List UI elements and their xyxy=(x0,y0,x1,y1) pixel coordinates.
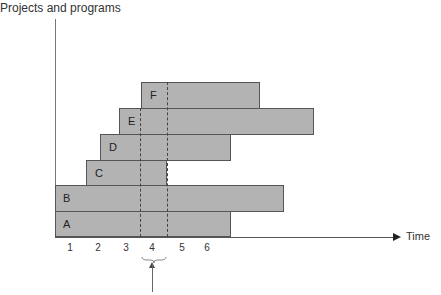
x-axis xyxy=(55,237,394,238)
bar-f: F xyxy=(141,82,260,109)
bar-a-label: A xyxy=(63,218,70,230)
tick-1: 1 xyxy=(64,242,76,253)
bar-d-label: D xyxy=(109,141,117,153)
bar-a: A xyxy=(55,211,231,237)
y-axis-title: Projects and programs xyxy=(0,1,121,15)
bar-c-label: C xyxy=(95,167,103,179)
tick-3: 3 xyxy=(120,242,132,253)
tick-6: 6 xyxy=(201,242,213,253)
tick-4: 4 xyxy=(146,242,158,253)
pointer-line xyxy=(152,264,153,292)
tick-2: 2 xyxy=(92,242,104,253)
x-axis-title: Time xyxy=(406,230,430,242)
bar-e: E xyxy=(119,108,314,135)
period-start-dashed-line xyxy=(140,108,141,237)
bar-f-label: F xyxy=(150,89,157,101)
x-axis-arrow-icon xyxy=(393,233,401,241)
bar-d: D xyxy=(100,134,231,161)
period-end-dashed-line xyxy=(167,82,168,237)
bar-b-label: B xyxy=(63,192,70,204)
bar-b: B xyxy=(55,185,284,212)
bar-c: C xyxy=(86,160,167,186)
bar-e-label: E xyxy=(128,115,135,127)
tick-5: 5 xyxy=(176,242,188,253)
